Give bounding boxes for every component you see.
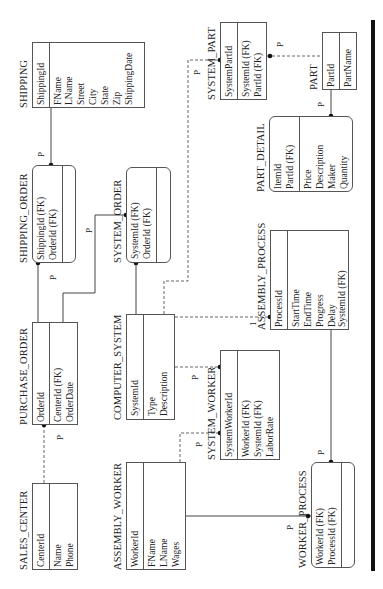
entity-part[interactable]: PartId PartName xyxy=(322,32,357,90)
pk-field: SystemWorkerId xyxy=(224,393,235,457)
attr-field: Maker xyxy=(327,164,338,189)
attr-field: LaborRate xyxy=(265,417,276,457)
entity-title-worker-process: WORKER_PROCESS xyxy=(298,470,309,568)
pk-field: SystemId (FK) xyxy=(130,202,141,259)
entity-title-assembly-worker: ASSEMBLY_WORKER xyxy=(113,463,124,570)
entity-title-part: PART xyxy=(309,64,320,90)
attr-field: EndTime xyxy=(303,292,314,327)
entity-assembly-worker[interactable]: WorkerId FName LName Wages xyxy=(126,462,186,570)
attr-field: Type xyxy=(147,397,158,416)
attr-field: Phone xyxy=(65,543,76,567)
attr-field: State xyxy=(100,86,111,105)
entity-title-shipping-order: SHIPPING_ORDER xyxy=(19,174,30,264)
entity-title-system-worker: SYSTEM_WORKER xyxy=(207,367,218,460)
pk-field: ProcessId xyxy=(274,290,285,327)
attr-field: Street xyxy=(76,83,87,105)
cardinality-label: P xyxy=(190,375,201,380)
entity-title-system-order: SYSTEM_ORDER xyxy=(113,180,124,263)
entity-title-purchase-order: PURCHASE_ORDER xyxy=(19,328,30,425)
attr-field: Zip xyxy=(112,92,123,105)
pk-field: ProcessId (FK) xyxy=(327,507,338,565)
attr-field: Progress xyxy=(315,294,326,327)
attr-field: Price xyxy=(303,169,314,189)
entity-assembly-process[interactable]: ProcessId StartTime EndTime Progress Del… xyxy=(270,230,349,330)
entity-title-assembly-process: ASSEMBLY_PROCESS xyxy=(257,223,268,330)
attr-field: Delay xyxy=(327,304,338,327)
entity-title-sales-center: SALES_CENTER xyxy=(19,491,30,570)
entity-system-worker[interactable]: SystemWorkerId WorkerId (FK) SystemId (F… xyxy=(220,350,280,460)
attr-field: Wages xyxy=(171,542,182,567)
attr-field: StartTime xyxy=(291,289,302,327)
entity-system-order[interactable]: SystemId (FK) OrderId (FK) xyxy=(126,167,171,263)
attr-field: ShippingDate xyxy=(124,53,135,105)
attr-field: FName xyxy=(53,77,64,105)
attr-field: Name xyxy=(53,544,64,567)
pk-field: PartId (FK) xyxy=(285,145,296,189)
attr-field: PartName xyxy=(343,49,354,87)
entity-shipping-order[interactable]: ShippingId (FK) OrderId (FK) xyxy=(32,165,76,263)
entity-purchase-order[interactable]: OrderId CenterId (FK) OrderDate xyxy=(32,322,78,425)
pk-field: OrderId xyxy=(36,392,47,422)
cardinality-label: P xyxy=(194,442,205,447)
entity-part-detail[interactable]: ItemId PartId (FK) Price Description Mak… xyxy=(269,116,353,192)
entity-title-system-part: SYSTEM_PART xyxy=(207,27,218,100)
attr-field: WorkerId (FK) xyxy=(241,400,252,457)
attr-field: SystemId (FK) xyxy=(241,40,252,97)
attr-field: CenterId (FK) xyxy=(53,368,64,422)
attr-field: LName xyxy=(159,539,170,568)
attr-field: LName xyxy=(64,77,75,106)
attr-field: SystemId (FK) xyxy=(337,270,348,327)
attr-field: Quantity xyxy=(339,156,350,189)
pk-field: PartId xyxy=(326,64,337,87)
attr-field: PartId (FK) xyxy=(253,53,264,97)
entity-title-shipping: SHIPPING xyxy=(19,60,30,108)
pk-field: SystemPartId xyxy=(224,46,235,97)
pk-field: OrderId (FK) xyxy=(48,209,59,260)
entity-computer-system[interactable]: SystemId Type Description xyxy=(126,314,175,420)
attr-field: City xyxy=(88,89,99,105)
cardinality-label: P xyxy=(316,450,327,455)
cardinality-label: P xyxy=(36,152,47,157)
pk-field: WorkerId (FK) xyxy=(315,508,326,565)
cardinality-label: P xyxy=(192,70,203,75)
entity-sales-center[interactable]: CenterId Name Phone xyxy=(32,483,78,570)
cardinality-label: P xyxy=(55,435,66,440)
pk-field: CenterId xyxy=(36,534,47,567)
page-rule xyxy=(371,20,375,571)
entity-title-part-detail: PART_DETAIL xyxy=(256,123,267,192)
cardinality-label: P xyxy=(285,525,296,530)
attr-field: Description xyxy=(315,145,326,189)
pk-field: OrderId (FK) xyxy=(142,208,153,259)
cardinality-label: P xyxy=(316,102,327,107)
cardinality-label: P xyxy=(84,228,95,233)
cardinality-label: P xyxy=(48,275,59,280)
entity-shipping[interactable]: ShippingId FName LName Street City State… xyxy=(32,42,145,108)
attr-field: FName xyxy=(147,539,158,567)
attr-field: OrderDate xyxy=(65,382,76,422)
pk-field: WorkerId xyxy=(130,531,141,567)
entity-worker-process[interactable]: WorkerId (FK) ProcessId (FK) xyxy=(311,462,355,568)
entity-title-computer-system: COMPUTER_SYSTEM xyxy=(113,315,124,420)
attr-field: SystemId (FK) xyxy=(253,400,264,457)
entity-system-part[interactable]: SystemPartId SystemId (FK) PartId (FK) xyxy=(220,22,267,100)
pk-field: ShippingId (FK) xyxy=(36,197,47,260)
pk-field: ShippingId xyxy=(36,63,47,105)
pk-field: SystemId xyxy=(130,380,141,416)
attr-field: Description xyxy=(159,372,170,416)
pk-field: ItemId xyxy=(273,164,284,189)
cardinality-label: P xyxy=(275,42,286,47)
